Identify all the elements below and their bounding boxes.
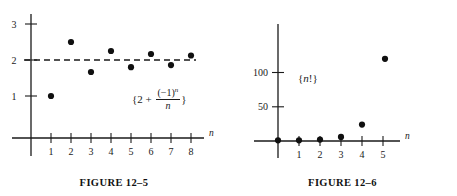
x-tick-label-5: 5 (381, 149, 386, 160)
figure-12-5-plot: 3 2 1 1 2 3 4 5 6 7 8 n (0, 0, 228, 166)
x-tick-label-3: 3 (339, 149, 344, 160)
data-point (359, 122, 365, 128)
figure-caption-left: FIGURE 12–5 (0, 177, 228, 188)
x-tick-label-6: 6 (149, 146, 154, 157)
scatter-chart-left: 3 2 1 1 2 3 4 5 6 7 8 n (0, 0, 228, 166)
data-point (128, 64, 134, 70)
formula-fraction: (−1)nn (156, 87, 181, 111)
figure-12-5-panel: 3 2 1 1 2 3 4 5 6 7 8 n (0, 0, 228, 196)
x-tick-label-2: 2 (69, 146, 74, 157)
x-tick-label-4: 4 (109, 146, 114, 157)
y-tick-label-3: 3 (12, 19, 17, 30)
x-tick-label-8: 8 (189, 146, 194, 157)
formula-numerator: (−1)n (156, 87, 181, 99)
formula-numerator-base: (−1) (158, 87, 175, 98)
x-axis-name-label: n (405, 131, 410, 141)
data-point (275, 137, 281, 143)
y-tick-label-50: 50 (258, 101, 268, 112)
data-point (88, 69, 94, 75)
data-point (317, 137, 323, 143)
x-tick-label-1: 1 (297, 149, 302, 160)
y-tick-label-2: 2 (12, 55, 17, 66)
x-tick-label-4: 4 (360, 149, 365, 160)
formula-numerator-exponent: n (175, 86, 179, 94)
data-point (108, 48, 114, 54)
data-point (338, 134, 344, 140)
figure-12-6-panel: 100 50 1 2 3 4 5 n {n!} FIGUR (228, 0, 457, 196)
data-point (148, 51, 154, 57)
scatter-chart-right: 100 50 1 2 3 4 5 n (228, 0, 457, 166)
x-axis-name-label: n (209, 128, 214, 138)
x-tick-label-1: 1 (49, 146, 54, 157)
y-tick-label-1: 1 (12, 91, 17, 102)
data-point (188, 52, 194, 58)
x-tick-label-7: 7 (169, 146, 174, 157)
x-tick-label-5: 5 (129, 146, 134, 157)
data-point (48, 93, 54, 99)
data-point (382, 56, 388, 62)
figure-caption-right: FIGURE 12–6 (228, 177, 457, 188)
sequence-formula-annotation: {2 + (−1)nn} (132, 88, 187, 112)
formula-denominator: n (156, 99, 181, 112)
factorial-sequence-annotation: {n!} (298, 72, 318, 84)
data-point (68, 39, 74, 45)
formula-lead: 2 (137, 93, 143, 105)
figure-12-6-plot: 100 50 1 2 3 4 5 n {n!} (228, 0, 457, 166)
annot-close-brace: } (312, 72, 317, 84)
formula-close-brace: } (181, 93, 186, 105)
formula-plus: + (146, 93, 152, 105)
data-point (168, 62, 174, 68)
x-tick-label-3: 3 (89, 146, 94, 157)
y-tick-label-100: 100 (253, 67, 268, 78)
x-tick-label-2: 2 (318, 149, 323, 160)
data-point (296, 137, 302, 143)
